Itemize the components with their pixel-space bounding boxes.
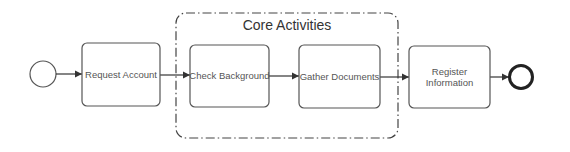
start-event[interactable] <box>30 61 56 87</box>
task-label: Gather Documents <box>300 71 380 82</box>
task-request-account[interactable]: Request Account <box>82 43 160 106</box>
task-label: Check Background <box>189 70 269 81</box>
task-label: Request Account <box>85 69 157 80</box>
task-check-background[interactable]: Check Background <box>189 45 269 107</box>
task-register-information[interactable]: Register Information <box>409 46 490 108</box>
process-diagram: Core Activities Request Account Check Ba… <box>0 0 570 152</box>
task-gather-documents[interactable]: Gather Documents <box>299 45 380 108</box>
group-label: Core Activities <box>243 17 332 33</box>
task-label-line-2: Information <box>426 77 474 88</box>
end-event[interactable] <box>510 66 533 89</box>
task-label-line-1: Register <box>432 66 467 77</box>
